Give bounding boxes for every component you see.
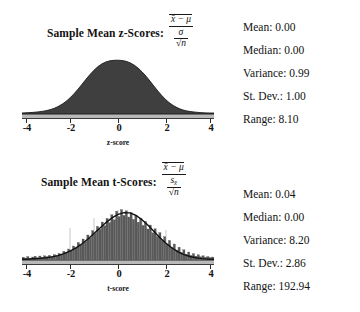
t-axis-label: t-score (22, 284, 214, 293)
t-stat-mean: Mean: 0.04 (243, 189, 360, 201)
z-stats-list: Mean: 0.00 Median: 0.00 Variance: 0.99 S… (243, 22, 360, 137)
z-formula: x̄ − μ σ √n (169, 15, 193, 49)
t-formula-se: sx̄ (170, 176, 177, 187)
t-stat-variance: Variance: 8.20 (243, 235, 360, 247)
t-ticklabel-0: -4 (23, 268, 32, 279)
z-formula-numerator: x̄ − μ (169, 15, 193, 26)
z-stat-range: Range: 8.10 (243, 114, 360, 126)
t-plot-area (22, 198, 214, 260)
z-plot-area (22, 52, 214, 114)
z-ticklabel-0: -4 (23, 122, 32, 133)
t-stat-range: Range: 192.94 (243, 281, 360, 293)
z-formula-sqrt-n: √n (176, 39, 186, 49)
t-ticklabel-1: -2 (67, 268, 76, 279)
t-formula-denominator: sx̄ √n (165, 175, 183, 199)
z-axis-label: z-score (22, 138, 214, 147)
t-score-panel: Sample Mean t-Scores: x̄ − μ sx̄ √n (0, 156, 360, 312)
z-stat-mean: Mean: 0.00 (243, 22, 360, 34)
z-formula-sigma: σ (179, 28, 184, 38)
t-chart: -4 -2 0 2 4 t-score (22, 198, 214, 270)
t-stats-list: Mean: 0.04 Median: 0.00 Variance: 8.20 S… (243, 189, 360, 304)
t-title-row: Sample Mean t-Scores: x̄ − μ sx̄ √n (41, 164, 186, 199)
t-formula-numerator: x̄ − μ (162, 163, 186, 174)
z-ticklabel-1: -2 (67, 122, 76, 133)
t-panel-title: Sample Mean t-Scores: (41, 176, 157, 188)
z-panel-title: Sample Mean z-Scores: (47, 27, 164, 39)
z-chart: -4 -2 0 2 4 z-score (22, 52, 214, 124)
z-score-panel: Sample Mean z-Scores: x̄ − μ σ √n -4 -2 … (0, 0, 360, 156)
z-stat-median: Median: 0.00 (243, 45, 360, 57)
z-formula-denominator: σ √n (172, 27, 190, 50)
z-density-curve (22, 60, 214, 114)
t-formula: x̄ − μ sx̄ √n (162, 163, 186, 198)
z-stat-stdev: St. Dev.: 1.00 (243, 91, 360, 103)
z-ticklabel-2: 0 (116, 122, 121, 133)
t-ticklabel-4: 4 (208, 268, 213, 279)
z-density-svg (22, 52, 214, 114)
z-stat-variance: Variance: 0.99 (243, 68, 360, 80)
t-formula-sqrt-n: √n (169, 188, 179, 198)
t-ticklabel-3: 2 (164, 268, 169, 279)
t-ticklabel-2: 0 (116, 268, 121, 279)
z-title-row: Sample Mean z-Scores: x̄ − μ σ √n (47, 16, 193, 50)
z-ticklabel-3: 2 (164, 122, 169, 133)
t-stat-median: Median: 0.00 (243, 212, 360, 224)
t-stat-stdev: St. Dev.: 2.86 (243, 258, 360, 270)
t-histogram-svg (22, 198, 214, 260)
z-ticklabel-4: 4 (208, 122, 213, 133)
